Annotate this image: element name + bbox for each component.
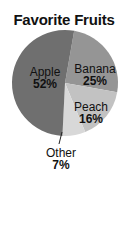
label-peach: Peach 16% xyxy=(68,101,114,125)
label-banana-pct: 25% xyxy=(70,75,120,87)
label-banana: Banana 25% xyxy=(70,63,120,87)
label-peach-pct: 16% xyxy=(68,113,114,125)
label-other: Other 7% xyxy=(41,147,81,171)
label-other-pct: 7% xyxy=(41,159,81,171)
label-apple: Apple 52% xyxy=(20,66,70,90)
label-apple-pct: 52% xyxy=(20,78,70,90)
